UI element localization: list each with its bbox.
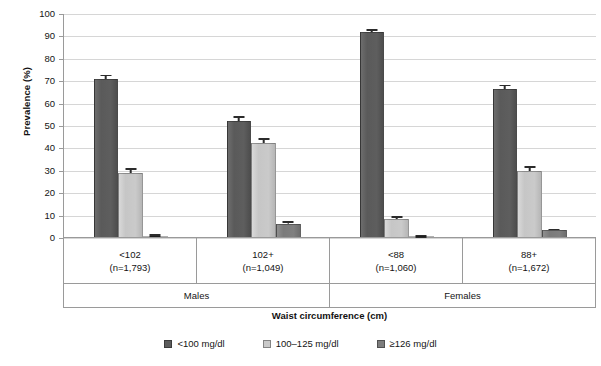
bar-group [463, 14, 596, 237]
legend-item[interactable]: <100 mg/dl [164, 338, 224, 349]
category-label: 102+ [252, 248, 273, 261]
category-count: (n=1,049) [243, 261, 284, 274]
bar-slot [118, 14, 143, 237]
error-bar-cap-top [125, 168, 136, 170]
supergroup-label: Females [329, 284, 595, 307]
error-bar-cap-top [258, 138, 269, 140]
bar[interactable] [517, 171, 542, 237]
bar-slot [251, 14, 276, 237]
bar[interactable] [94, 79, 119, 237]
bar-group [330, 14, 463, 237]
error-bar-cap-top [524, 166, 535, 168]
bar[interactable] [542, 230, 567, 237]
error-bar-cap-top [391, 216, 402, 218]
bar-slot [384, 14, 409, 237]
y-axis-tick-label: 20 [19, 187, 55, 198]
category-count: (n=1,060) [376, 261, 417, 274]
bar-cluster [94, 14, 168, 237]
category-label: 88+ [521, 248, 537, 261]
category-label-cell: 88+(n=1,672) [462, 238, 595, 283]
y-axis-tick-label: 100 [19, 8, 55, 19]
category-label: <102 [119, 248, 140, 261]
supergroup-axis-row: MalesFemales [63, 284, 596, 308]
legend-swatch-icon [164, 340, 172, 348]
bar-slot [517, 14, 542, 237]
legend-label: <100 mg/dl [177, 338, 224, 349]
bar-cluster [493, 14, 567, 237]
bar[interactable] [143, 236, 168, 237]
category-label-cell: <88(n=1,060) [329, 238, 462, 283]
category-axis-row: <102(n=1,793)102+(n=1,049)<88(n=1,060)88… [63, 238, 596, 284]
bar[interactable] [409, 236, 434, 237]
bar-slot [143, 14, 168, 237]
category-count: (n=1,672) [509, 261, 550, 274]
bar[interactable] [227, 121, 252, 237]
x-axis-title: Waist circumference (cm) [63, 310, 596, 321]
bar-slot [276, 14, 301, 237]
bar[interactable] [384, 219, 409, 237]
legend-item[interactable]: 100–125 mg/dl [263, 338, 339, 349]
prevalence-bar-chart: Prevalence (%) 1009080706050403020100 <1… [0, 0, 601, 366]
legend-swatch-icon [263, 340, 271, 348]
bar-slot [409, 14, 434, 237]
y-axis-tick-label: 0 [19, 232, 55, 243]
bar[interactable] [360, 32, 385, 237]
legend-item[interactable]: ≥126 mg/dl [377, 338, 437, 349]
category-label-cell: 102+(n=1,049) [196, 238, 329, 283]
plot-area [63, 14, 596, 238]
legend-label: ≥126 mg/dl [390, 338, 437, 349]
bar-slot [493, 14, 518, 237]
bar-group [64, 14, 197, 237]
bar[interactable] [493, 89, 518, 237]
error-bar-cap-top [100, 75, 111, 77]
chart-legend: <100 mg/dl100–125 mg/dl≥126 mg/dl [0, 338, 601, 349]
y-axis-title: Prevalence (%) [21, 32, 32, 172]
bar-slot [94, 14, 119, 237]
category-label-cell: <102(n=1,793) [64, 238, 196, 283]
category-label: <88 [388, 248, 404, 261]
legend-swatch-icon [377, 340, 385, 348]
error-bar-cap-top [499, 85, 510, 87]
error-bar-cap-top [233, 116, 244, 118]
legend-label: 100–125 mg/dl [276, 338, 339, 349]
bar[interactable] [251, 143, 276, 237]
y-axis-tick-label: 10 [19, 210, 55, 221]
bar-groups [64, 14, 596, 237]
bar-group [197, 14, 330, 237]
bar[interactable] [276, 224, 301, 237]
bar-slot [360, 14, 385, 237]
bar-cluster [227, 14, 301, 237]
bar-slot [542, 14, 567, 237]
bar-cluster [360, 14, 434, 237]
bar-slot [227, 14, 252, 237]
category-count: (n=1,793) [110, 261, 151, 274]
supergroup-label: Males [64, 284, 329, 307]
error-bar-cap-top [366, 29, 377, 31]
bar[interactable] [118, 173, 143, 238]
